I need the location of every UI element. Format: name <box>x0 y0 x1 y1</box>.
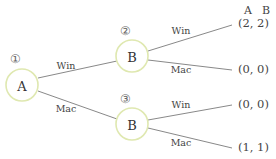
edge-n1-mac <box>38 91 117 119</box>
branch-label-n2-mac: Mac <box>171 65 192 75</box>
branch-label-n3-win: Win <box>172 100 191 110</box>
payoff-header-b: B <box>262 5 270 16</box>
payoff-4: (1, 1) <box>238 142 269 154</box>
payoff-3: (0, 0) <box>238 99 269 111</box>
branch-label-n1-mac: Mac <box>56 104 77 114</box>
payoff-header-a: A <box>244 5 252 16</box>
node-label-3: B <box>127 119 137 132</box>
node-number-1: ① <box>10 53 21 65</box>
edge-n1-win <box>38 61 117 78</box>
payoff-2: (0, 0) <box>238 64 269 76</box>
branch-label-n1-win: Win <box>57 61 76 71</box>
node-number-2: ② <box>120 25 131 37</box>
branch-label-n3-mac: Mac <box>171 138 192 148</box>
branch-label-n2-win: Win <box>172 26 191 36</box>
node-label-2: B <box>127 51 137 64</box>
payoff-1: (2, 2) <box>238 18 269 30</box>
node-number-3: ③ <box>120 93 131 105</box>
node-label-1: A <box>17 80 26 93</box>
game-tree-graphics <box>0 0 276 159</box>
